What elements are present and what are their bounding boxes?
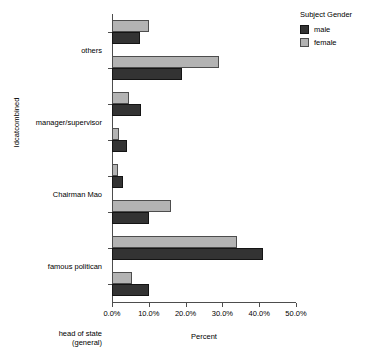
x-tick-label: 20.0%: [175, 309, 196, 318]
plot-area: othersmanager/supervisorChairman Maofamo…: [112, 14, 296, 302]
bar-group: [112, 200, 296, 224]
x-tick-mark: [149, 303, 150, 307]
x-tick-mark: [112, 303, 113, 307]
x-tick-mark: [186, 303, 187, 307]
bar-group: [112, 272, 296, 296]
bar-female[interactable]: [112, 92, 129, 104]
bar-female[interactable]: [112, 128, 119, 140]
y-tick-mark: famous politican: [108, 140, 112, 141]
bar-group: [112, 92, 296, 116]
bar-female[interactable]: [112, 236, 237, 248]
legend-label-female: female: [314, 38, 337, 47]
x-tick-mark: [222, 303, 223, 307]
bar-male[interactable]: [112, 176, 123, 188]
x-tick-mark: [296, 303, 297, 307]
y-tick-mark: person: [108, 248, 112, 249]
y-tick-label: manager/supervisor: [2, 118, 102, 127]
y-tick-mark: manager/supervisor: [108, 68, 112, 69]
bar-female[interactable]: [112, 20, 149, 32]
y-tick-label: head of state (general): [2, 329, 102, 347]
legend-swatch-female-icon: [300, 38, 309, 47]
bar-male[interactable]: [112, 32, 140, 44]
x-tick-label: 40.0%: [249, 309, 270, 318]
y-tick-mark: military personnel: [108, 284, 112, 285]
legend-item-female[interactable]: female: [300, 38, 378, 47]
bar-female[interactable]: [112, 164, 118, 176]
bar-group: [112, 128, 296, 152]
bar-female[interactable]: [112, 200, 171, 212]
legend-swatch-male-icon: [300, 25, 309, 34]
x-tick-label: 30.0%: [212, 309, 233, 318]
bar-male[interactable]: [112, 68, 182, 80]
legend: Subject Gender male female: [300, 10, 378, 51]
bar-female[interactable]: [112, 56, 219, 68]
y-tick-label: others: [2, 46, 102, 55]
legend-label-male: male: [314, 25, 330, 34]
y-tick-mark: head of state (general): [108, 176, 112, 177]
bar-male[interactable]: [112, 140, 127, 152]
bar-group: [112, 164, 296, 188]
bar-male[interactable]: [112, 212, 149, 224]
legend-item-male[interactable]: male: [300, 25, 378, 34]
bar-female[interactable]: [112, 272, 132, 284]
bar-male[interactable]: [112, 248, 263, 260]
bar-chart: Idcatcombined othersmanager/supervisorCh…: [0, 0, 379, 349]
y-tick-mark: Chairman Mao: [108, 104, 112, 105]
x-tick-label: 50.0%: [285, 309, 306, 318]
x-tick-label: 0.0%: [103, 309, 120, 318]
x-tick-label: 10.0%: [138, 309, 159, 318]
bar-group: [112, 56, 296, 80]
bar-male[interactable]: [112, 104, 141, 116]
x-tick-mark: [259, 303, 260, 307]
legend-title: Subject Gender: [300, 10, 378, 19]
bar-group: [112, 236, 296, 260]
x-axis-title: Percent: [112, 332, 296, 341]
bar-male[interactable]: [112, 284, 149, 296]
y-tick-mark: teacher: [108, 212, 112, 213]
x-axis-line: [112, 302, 296, 303]
y-tick-label: Chairman Mao: [2, 190, 102, 199]
y-tick-mark: others: [108, 32, 112, 33]
bar-group: [112, 20, 296, 44]
y-tick-label: famous politican: [2, 262, 102, 271]
